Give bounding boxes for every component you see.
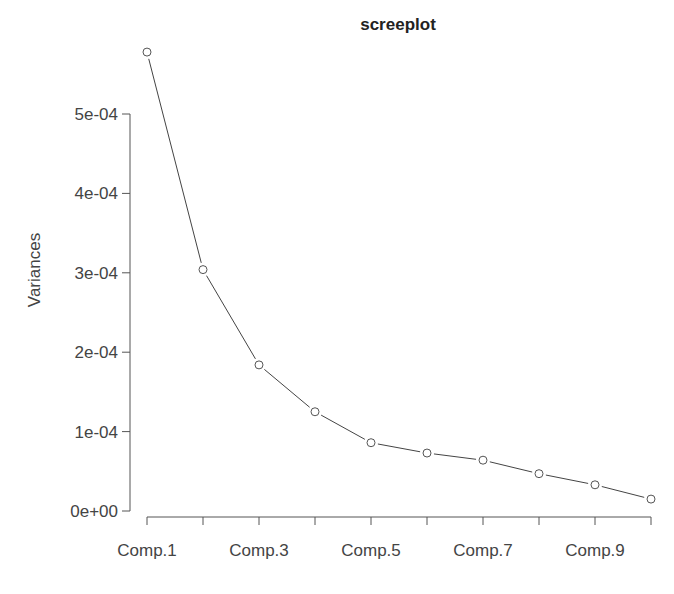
data-point (423, 449, 431, 457)
x-tick-label: Comp.9 (565, 541, 625, 560)
data-point (199, 266, 207, 274)
data-point (255, 361, 263, 369)
series-segment (149, 59, 202, 263)
data-point (591, 481, 599, 489)
y-axis: 0e+001e-042e-043e-044e-045e-04 (70, 105, 130, 521)
y-tick-label: 0e+00 (70, 502, 118, 521)
y-tick-label: 2e-04 (75, 343, 118, 362)
series-segment (434, 454, 476, 459)
series-segment (207, 276, 256, 359)
y-tick-label: 5e-04 (75, 105, 118, 124)
x-tick-label: Comp.5 (341, 541, 401, 560)
y-axis-label: Variances (25, 233, 44, 307)
x-tick-label: Comp.3 (229, 541, 289, 560)
y-tick-label: 3e-04 (75, 264, 118, 283)
data-point (647, 495, 655, 503)
x-tick-label: Comp.1 (117, 541, 177, 560)
data-point (311, 408, 319, 416)
x-tick-label: Comp.7 (453, 541, 513, 560)
series-segment (546, 475, 588, 483)
series-segment (490, 462, 532, 472)
data-point (479, 456, 487, 464)
y-tick-label: 4e-04 (75, 184, 118, 203)
series-segment (264, 369, 309, 407)
series-segment (378, 444, 420, 452)
chart-title: screeplot (360, 15, 436, 34)
scree-plot: screeplot 0e+001e-042e-043e-044e-045e-04… (0, 0, 674, 594)
data-point (367, 439, 375, 447)
data-point (143, 48, 151, 56)
series-segment (602, 487, 644, 498)
data-series (143, 48, 655, 503)
y-tick-label: 1e-04 (75, 423, 118, 442)
series-segment (321, 415, 365, 439)
data-point (535, 470, 543, 478)
x-axis: Comp.1Comp.3Comp.5Comp.7Comp.9 (117, 517, 651, 560)
